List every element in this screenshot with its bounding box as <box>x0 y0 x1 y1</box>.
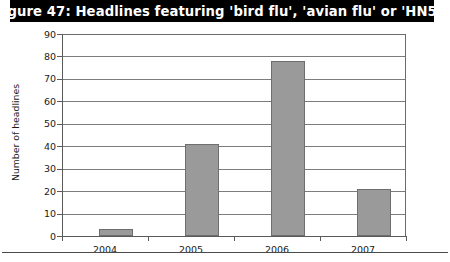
gridline <box>63 101 405 102</box>
bar-2006[interactable] <box>271 61 305 236</box>
x-tick-label-2007: 2007 <box>333 244 393 255</box>
y-axis-tick-labels: 90 80 70 60 50 40 30 20 10 0 <box>26 22 56 262</box>
figure-bottom-rule <box>2 252 448 253</box>
gridline <box>63 146 405 147</box>
y-tick-label: 60 <box>30 97 56 107</box>
x-tick-mark <box>62 236 63 241</box>
x-tick-mark <box>320 236 321 241</box>
plot-area <box>62 34 406 236</box>
x-tick-mark <box>148 236 149 241</box>
y-tick-label: 10 <box>30 209 56 219</box>
y-tick-label: 50 <box>30 119 56 129</box>
bar-chart-figure: Number of headlines 90 80 70 60 50 40 30… <box>0 22 450 262</box>
y-axis-title: Number of headlines <box>10 78 21 188</box>
y-tick-label: 70 <box>30 74 56 84</box>
gridline <box>63 56 405 57</box>
x-tick-label-2006: 2006 <box>247 244 307 255</box>
y-tick-label: 20 <box>30 187 56 197</box>
gridline <box>63 124 405 125</box>
y-tick-label: 80 <box>30 52 56 62</box>
figure-title-banner: Figure 47: Headlines featuring 'bird flu… <box>10 0 434 22</box>
bar-2007[interactable] <box>357 189 391 236</box>
gridline <box>63 169 405 170</box>
y-tick-label: 0 <box>30 232 56 242</box>
gridline <box>63 191 405 192</box>
x-tick-label-2004: 2004 <box>75 244 135 255</box>
x-tick-mark <box>406 236 407 241</box>
gridline <box>63 79 405 80</box>
gridline <box>63 214 405 215</box>
y-tick-label: 40 <box>30 142 56 152</box>
page-title: Figure 47: Headlines featuring 'bird flu… <box>0 4 450 19</box>
y-tick-label: 90 <box>30 30 56 40</box>
bar-2005[interactable] <box>185 144 219 236</box>
bar-2004[interactable] <box>99 229 133 236</box>
y-tick-label: 30 <box>30 164 56 174</box>
x-tick-mark <box>234 236 235 241</box>
x-tick-label-2005: 2005 <box>161 244 221 255</box>
